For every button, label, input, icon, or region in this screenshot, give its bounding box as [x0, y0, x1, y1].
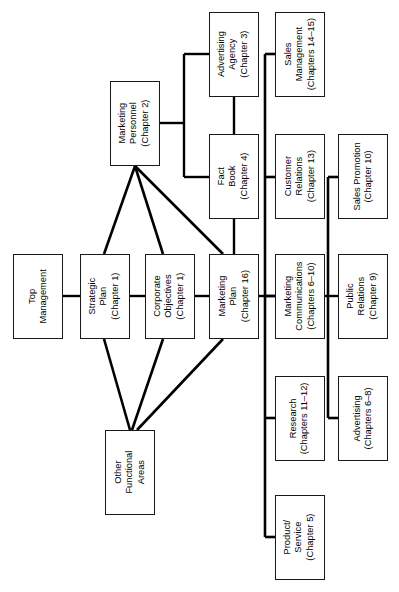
- node-top-management[interactable]: TopManagement: [13, 254, 63, 339]
- node-label-line: (Chapters 6–10): [306, 262, 317, 331]
- node-label-customer-relations: CustomerRelations(Chapter 13): [283, 150, 317, 202]
- node-label-line: Customer: [283, 150, 294, 202]
- node-label-line: Management: [38, 269, 49, 323]
- node-label-line: (Chapter 3): [240, 31, 251, 78]
- node-label-line: Advertising: [352, 387, 363, 449]
- node-strategic-plan[interactable]: StrategicPlan(Chapter 1): [80, 254, 130, 339]
- node-label-line: Public: [346, 273, 357, 320]
- node-label-corporate-objectives: CorporateObjectives(Chapter 1): [153, 273, 187, 320]
- node-label-research: Research(Chapters 11–12): [289, 383, 312, 455]
- edge-corporate-objectives--other-functional-areas: [132, 339, 163, 430]
- node-corporate-objectives[interactable]: CorporateObjectives(Chapter 1): [145, 254, 195, 339]
- node-label-line: Functional: [124, 451, 135, 494]
- node-label-other-functional-areas: OtherFunctionalAreas: [113, 451, 147, 494]
- node-label-line: (Chapters 11–12): [300, 383, 311, 455]
- node-label-line: Service: [294, 514, 305, 561]
- node-other-functional-areas[interactable]: OtherFunctionalAreas: [105, 430, 155, 515]
- node-label-line: Marketing: [283, 262, 294, 331]
- node-label-line: (Chapter 2): [141, 100, 152, 147]
- node-label-line: Areas: [136, 451, 147, 494]
- edge-marketing-personnel--strategic-plan: [104, 166, 135, 254]
- node-label-top-management: TopManagement: [27, 269, 50, 323]
- node-label-advertising-agency: AdvertisingAgency(Chapter 3): [217, 31, 251, 78]
- node-label-line: Corporate: [153, 273, 164, 320]
- node-label-line: (Chapter 13): [306, 150, 317, 202]
- node-label-line: (Chapter 9): [369, 273, 380, 320]
- node-label-line: Top: [27, 269, 38, 323]
- edge-marketing-plan--other-functional-areas: [137, 339, 223, 430]
- node-label-sales-promotion: Sales Promotion(Chapter 10): [352, 142, 375, 210]
- node-marketing-personnel[interactable]: MarketingPersonnel(Chapter 2): [110, 81, 160, 166]
- node-research[interactable]: Research(Chapters 11–12): [275, 376, 325, 461]
- node-label-line: Relations: [357, 273, 368, 320]
- node-label-line: Book: [228, 153, 239, 200]
- node-label-fact-book: FactBook(Chapter 4): [217, 153, 251, 200]
- node-product-service[interactable]: Product/Service(Chapter 5): [275, 495, 325, 580]
- node-label-marketing-communications: MarketingCommunications(Chapters 6–10): [283, 262, 317, 331]
- node-label-line: Personnel: [129, 100, 140, 147]
- node-fact-book[interactable]: FactBook(Chapter 4): [209, 134, 259, 219]
- node-label-line: Fact: [217, 153, 228, 200]
- node-marketing-plan[interactable]: MarketingPlan(Chapter 16): [209, 254, 259, 339]
- node-label-line: Communications: [294, 262, 305, 331]
- node-label-line: (Chapter 10): [363, 142, 374, 210]
- edge-strategic-plan--other-functional-areas: [104, 339, 130, 430]
- node-label-advertising: Advertising(Chapters 6–8): [352, 387, 375, 449]
- node-label-line: (Chapter 16): [240, 270, 251, 322]
- node-label-line: Research: [289, 383, 300, 455]
- node-label-sales-management: SalesManagement(Chapters 14–15): [283, 18, 317, 90]
- node-label-line: Product/: [283, 514, 294, 561]
- node-label-line: Objectives: [164, 273, 175, 320]
- node-advertising-agency[interactable]: AdvertisingAgency(Chapter 3): [209, 12, 259, 97]
- node-label-line: Plan: [99, 273, 110, 320]
- node-label-line: Agency: [228, 31, 239, 78]
- flow-chart-diagram: TopManagementStrategicPlan(Chapter 1)Cor…: [0, 0, 399, 592]
- node-label-line: Plan: [228, 270, 239, 322]
- node-sales-management[interactable]: SalesManagement(Chapters 14–15): [275, 12, 325, 97]
- node-label-line: Marketing: [217, 270, 228, 322]
- node-label-strategic-plan: StrategicPlan(Chapter 1): [88, 273, 122, 320]
- node-advertising[interactable]: Advertising(Chapters 6–8): [338, 376, 388, 461]
- node-label-marketing-personnel: MarketingPersonnel(Chapter 2): [118, 100, 152, 147]
- node-label-line: Strategic: [88, 273, 99, 320]
- node-label-line: Management: [294, 18, 305, 90]
- node-label-line: Sales Promotion: [352, 142, 363, 210]
- node-label-line: (Chapters 6–8): [363, 387, 374, 449]
- node-label-line: Advertising: [217, 31, 228, 78]
- node-label-line: (Chapter 4): [240, 153, 251, 200]
- node-public-relations[interactable]: PublicRelations(Chapter 9): [338, 254, 388, 339]
- node-label-line: Marketing: [118, 100, 129, 147]
- node-label-line: (Chapter 1): [176, 273, 187, 320]
- node-label-line: (Chapters 14–15): [306, 18, 317, 90]
- node-sales-promotion[interactable]: Sales Promotion(Chapter 10): [338, 134, 388, 219]
- node-label-line: (Chapter 5): [306, 514, 317, 561]
- node-label-line: (Chapter 1): [111, 273, 122, 320]
- node-label-line: Sales: [283, 18, 294, 90]
- node-label-public-relations: PublicRelations(Chapter 9): [346, 273, 380, 320]
- node-marketing-communications[interactable]: MarketingCommunications(Chapters 6–10): [275, 254, 325, 339]
- node-label-marketing-plan: MarketingPlan(Chapter 16): [217, 270, 251, 322]
- node-label-line: Relations: [294, 150, 305, 202]
- node-label-product-service: Product/Service(Chapter 5): [283, 514, 317, 561]
- node-label-line: Other: [113, 451, 124, 494]
- node-customer-relations[interactable]: CustomerRelations(Chapter 13): [275, 134, 325, 219]
